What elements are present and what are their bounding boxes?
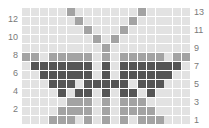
- grid-cell[interactable]: [22, 80, 30, 88]
- grid-cell[interactable]: [75, 107, 83, 115]
- grid-cell[interactable]: [164, 71, 172, 79]
- grid-cell[interactable]: [147, 53, 155, 61]
- grid-cell[interactable]: [102, 17, 110, 25]
- grid-cell[interactable]: [147, 116, 155, 124]
- grid-cell[interactable]: [93, 116, 101, 124]
- grid-cell[interactable]: [138, 80, 146, 88]
- grid-cell[interactable]: [120, 89, 128, 97]
- grid-cell[interactable]: [58, 35, 66, 43]
- grid-cell[interactable]: [164, 116, 172, 124]
- grid-cell[interactable]: [75, 80, 83, 88]
- grid-cell[interactable]: [49, 35, 57, 43]
- grid-cell[interactable]: [49, 89, 57, 97]
- grid-cell[interactable]: [75, 89, 83, 97]
- grid-cell[interactable]: [111, 17, 119, 25]
- grid-cell[interactable]: [129, 35, 137, 43]
- grid-cell[interactable]: [173, 80, 181, 88]
- grid-cell[interactable]: [173, 98, 181, 106]
- grid-cell[interactable]: [156, 44, 164, 52]
- grid-cell[interactable]: [111, 53, 119, 61]
- grid-cell[interactable]: [75, 17, 83, 25]
- grid-cell[interactable]: [182, 44, 190, 52]
- grid-cell[interactable]: [93, 89, 101, 97]
- grid-cell[interactable]: [173, 71, 181, 79]
- grid-cell[interactable]: [93, 107, 101, 115]
- grid-cell[interactable]: [93, 44, 101, 52]
- grid-cell[interactable]: [84, 89, 92, 97]
- grid-cell[interactable]: [182, 26, 190, 34]
- grid-cell[interactable]: [120, 26, 128, 34]
- grid-cell[interactable]: [31, 80, 39, 88]
- grid-cell[interactable]: [182, 8, 190, 16]
- grid-cell[interactable]: [111, 98, 119, 106]
- grid-cell[interactable]: [40, 35, 48, 43]
- grid-cell[interactable]: [111, 80, 119, 88]
- grid-cell[interactable]: [84, 35, 92, 43]
- grid-cell[interactable]: [156, 116, 164, 124]
- grid-cell[interactable]: [182, 107, 190, 115]
- grid-cell[interactable]: [75, 8, 83, 16]
- grid-cell[interactable]: [102, 62, 110, 70]
- grid-cell[interactable]: [111, 26, 119, 34]
- grid-cell[interactable]: [182, 62, 190, 70]
- grid-cell[interactable]: [102, 8, 110, 16]
- grid-cell[interactable]: [93, 8, 101, 16]
- grid-cell[interactable]: [147, 17, 155, 25]
- grid-cell[interactable]: [22, 8, 30, 16]
- grid-cell[interactable]: [164, 62, 172, 70]
- grid-cell[interactable]: [67, 107, 75, 115]
- grid-cell[interactable]: [22, 44, 30, 52]
- grid-cell[interactable]: [22, 107, 30, 115]
- grid-cell[interactable]: [31, 89, 39, 97]
- grid-cell[interactable]: [164, 107, 172, 115]
- grid-cell[interactable]: [31, 53, 39, 61]
- grid-cell[interactable]: [58, 89, 66, 97]
- grid-cell[interactable]: [22, 62, 30, 70]
- grid-cell[interactable]: [22, 17, 30, 25]
- grid-cell[interactable]: [102, 53, 110, 61]
- grid-cell[interactable]: [156, 107, 164, 115]
- grid-cell[interactable]: [58, 44, 66, 52]
- grid-cell[interactable]: [102, 116, 110, 124]
- grid-cell[interactable]: [84, 62, 92, 70]
- grid-cell[interactable]: [49, 17, 57, 25]
- grid-cell[interactable]: [164, 8, 172, 16]
- grid-cell[interactable]: [111, 62, 119, 70]
- grid-cell[interactable]: [173, 53, 181, 61]
- grid-cell[interactable]: [164, 53, 172, 61]
- grid-cell[interactable]: [31, 98, 39, 106]
- grid-cell[interactable]: [67, 71, 75, 79]
- grid-cell[interactable]: [156, 89, 164, 97]
- grid-cell[interactable]: [40, 80, 48, 88]
- grid-cell[interactable]: [49, 107, 57, 115]
- grid-cell[interactable]: [67, 44, 75, 52]
- grid-cell[interactable]: [156, 17, 164, 25]
- grid-cell[interactable]: [182, 89, 190, 97]
- grid-cell[interactable]: [102, 26, 110, 34]
- grid-cell[interactable]: [138, 89, 146, 97]
- grid-cell[interactable]: [102, 71, 110, 79]
- grid-cell[interactable]: [138, 62, 146, 70]
- grid-cell[interactable]: [75, 44, 83, 52]
- grid-cell[interactable]: [164, 89, 172, 97]
- grid-cell[interactable]: [31, 17, 39, 25]
- grid-cell[interactable]: [138, 98, 146, 106]
- grid-cell[interactable]: [93, 26, 101, 34]
- grid-cell[interactable]: [173, 17, 181, 25]
- grid-cell[interactable]: [84, 107, 92, 115]
- grid-cell[interactable]: [111, 71, 119, 79]
- grid-cell[interactable]: [120, 98, 128, 106]
- grid-cell[interactable]: [75, 98, 83, 106]
- grid-cell[interactable]: [173, 89, 181, 97]
- grid-cell[interactable]: [147, 8, 155, 16]
- grid-cell[interactable]: [22, 116, 30, 124]
- grid-cell[interactable]: [84, 116, 92, 124]
- grid-cell[interactable]: [58, 71, 66, 79]
- grid-cell[interactable]: [84, 53, 92, 61]
- grid-cell[interactable]: [58, 62, 66, 70]
- grid-cell[interactable]: [58, 116, 66, 124]
- grid-cell[interactable]: [40, 107, 48, 115]
- grid-cell[interactable]: [182, 98, 190, 106]
- grid-cell[interactable]: [138, 17, 146, 25]
- grid-cell[interactable]: [111, 107, 119, 115]
